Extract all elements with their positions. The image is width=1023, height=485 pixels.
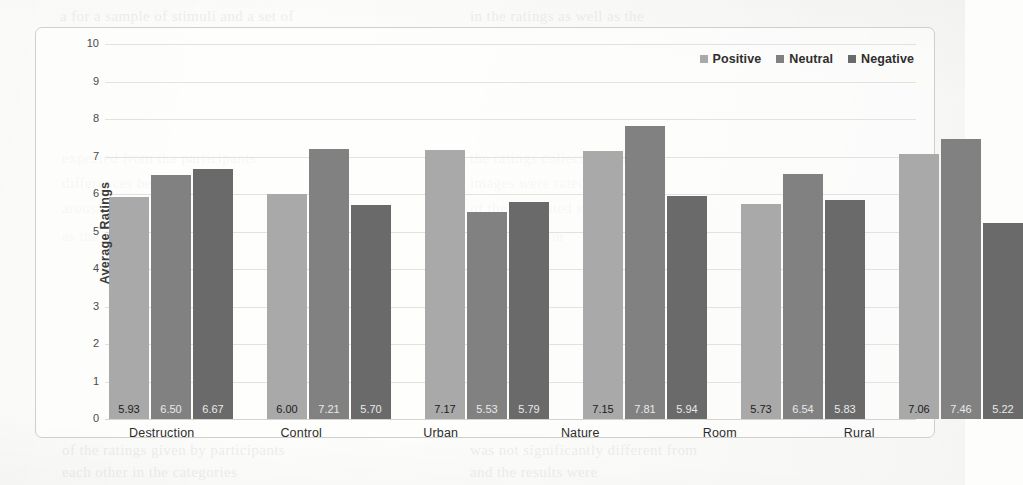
bar[interactable]: 7.46 [941,139,981,419]
bar-group: 6.007.215.70 [267,44,391,419]
bar-value-label: 5.73 [750,403,771,415]
bar[interactable]: 5.93 [109,197,149,419]
gridline: 0 [105,419,916,420]
bar-groups: 5.936.506.676.007.215.707.175.535.797.15… [105,44,916,419]
legend-swatch-icon [848,55,856,63]
bar-value-label: 6.50 [160,403,181,415]
chart-legend: PositiveNeutralNegative [700,52,914,66]
bar-value-label: 7.81 [634,403,655,415]
y-tick-label: 4 [77,262,99,274]
plot-area: 109876543210 5.936.506.676.007.215.707.1… [105,44,916,419]
legend-item-positive[interactable]: Positive [700,52,762,66]
bar-value-label: 7.15 [592,403,613,415]
bar[interactable]: 5.83 [825,200,865,419]
x-axis-label: Destruction [109,426,215,448]
bar-group: 5.736.545.83 [741,44,865,419]
legend-label: Neutral [789,52,833,66]
x-axis-label: Urban [388,426,494,448]
y-tick-label: 0 [77,412,99,424]
bar[interactable]: 6.00 [267,194,307,419]
bar-value-label: 7.46 [950,403,971,415]
bar-value-label: 7.17 [434,403,455,415]
x-axis-labels: DestructionControlUrbanNatureRoomRural [105,426,916,448]
bar-value-label: 5.93 [118,403,139,415]
legend-label: Positive [713,52,762,66]
bar-value-label: 5.79 [518,403,539,415]
bar-value-label: 5.83 [834,403,855,415]
y-axis-label: Average Ratings [98,181,112,284]
bar-value-label: 6.54 [792,403,813,415]
legend-label: Negative [861,52,914,66]
y-tick-label: 7 [77,150,99,162]
x-axis-label: Rural [807,426,913,448]
bar[interactable]: 5.94 [667,196,707,419]
bar-group: 7.157.815.94 [583,44,707,419]
legend-swatch-icon [776,55,784,63]
bleed-line: each other in the categories [62,464,237,481]
y-tick-label: 2 [77,337,99,349]
bar[interactable]: 5.79 [509,202,549,419]
bar[interactable]: 5.73 [741,204,781,419]
bar-value-label: 7.06 [908,403,929,415]
y-tick-label: 1 [77,375,99,387]
x-axis-label: Nature [528,426,634,448]
bar[interactable]: 7.21 [309,149,349,419]
bar[interactable]: 5.70 [351,205,391,419]
y-tick-label: 3 [77,300,99,312]
bar-value-label: 5.94 [676,403,697,415]
bar-group: 7.175.535.79 [425,44,549,419]
chart-frame: PositiveNeutralNegative Average Ratings … [35,27,935,438]
bleed-line: in the ratings as well as the [470,8,644,25]
bar-value-label: 7.21 [318,403,339,415]
y-tick-label: 6 [77,187,99,199]
bleed-line: and the results were [470,464,598,481]
bar[interactable]: 7.06 [899,154,939,419]
bar[interactable]: 7.15 [583,151,623,419]
bar[interactable]: 6.67 [193,169,233,419]
bar[interactable]: 5.53 [467,212,507,419]
y-tick-label: 10 [77,37,99,49]
bar[interactable]: 7.17 [425,150,465,419]
legend-item-neutral[interactable]: Neutral [776,52,833,66]
bar-value-label: 5.70 [360,403,381,415]
bar-group: 5.936.506.67 [109,44,233,419]
legend-item-negative[interactable]: Negative [848,52,914,66]
y-tick-label: 9 [77,75,99,87]
x-axis-label: Control [249,426,355,448]
bleed-line: a for a sample of stimuli and a set of [60,8,294,25]
y-tick-label: 8 [77,112,99,124]
x-axis-label: Room [667,426,773,448]
legend-swatch-icon [700,55,708,63]
bar[interactable]: 6.50 [151,175,191,419]
bar-group: 7.067.465.22 [899,44,1023,419]
y-tick-label: 5 [77,225,99,237]
bar-value-label: 5.22 [992,403,1013,415]
bar-value-label: 6.67 [202,403,223,415]
bar[interactable]: 5.22 [983,223,1023,419]
bar-value-label: 6.00 [276,403,297,415]
bar[interactable]: 6.54 [783,174,823,419]
bar[interactable]: 7.81 [625,126,665,419]
bar-value-label: 5.53 [476,403,497,415]
